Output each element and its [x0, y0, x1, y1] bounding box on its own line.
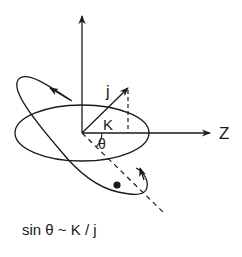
label-K: K [103, 116, 113, 133]
angular-momentum-diagram: j K θ Z [0, 0, 242, 257]
particle-dot [113, 181, 120, 188]
orbit-direction-arrow-upper [50, 88, 70, 100]
formula-caption: sin θ ~ K / j [22, 221, 97, 238]
diagram-canvas: j K θ Z sin θ ~ K / j [0, 0, 242, 257]
label-j: j [105, 83, 110, 100]
orbit-axis-dashed-line [82, 133, 163, 212]
label-Z: Z [219, 124, 229, 143]
label-theta: θ [98, 136, 106, 152]
